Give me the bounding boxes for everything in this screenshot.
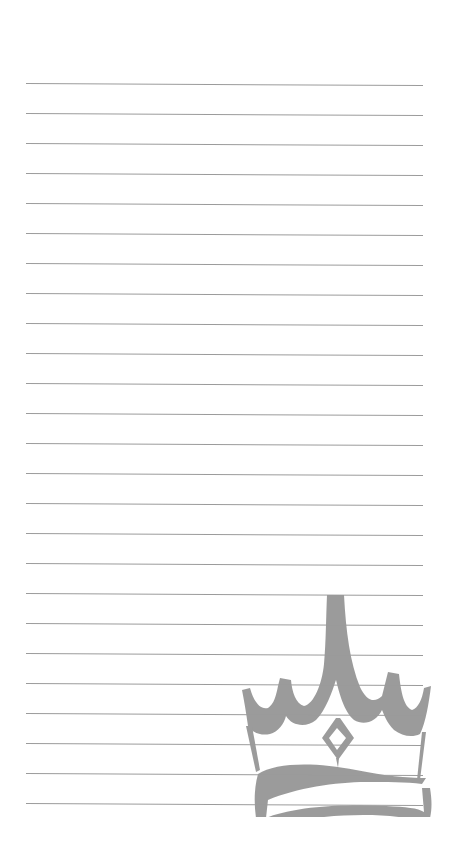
ruled-line (26, 383, 423, 386)
ruled-line (26, 443, 423, 446)
ruled-line (26, 113, 423, 116)
ruled-line (26, 293, 423, 296)
ruled-line (26, 323, 423, 326)
ruled-line (26, 143, 423, 146)
ruled-line (26, 413, 423, 416)
ruled-line (26, 83, 423, 86)
ruled-line (26, 563, 423, 566)
ruled-line (26, 503, 423, 506)
ruled-line (26, 533, 423, 536)
ruled-line (26, 473, 423, 476)
crown-icon (236, 592, 432, 817)
ruled-line (26, 233, 423, 236)
ruled-line (26, 173, 423, 176)
ruled-line (26, 263, 423, 266)
ruled-line (26, 203, 423, 206)
ruled-line (26, 353, 423, 356)
